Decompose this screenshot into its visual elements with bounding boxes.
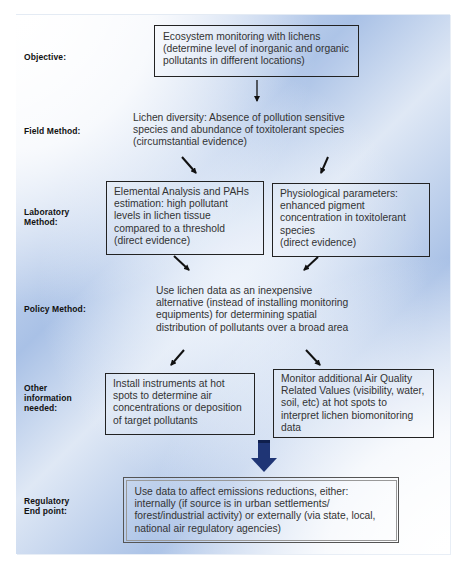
row-label-laboratory-method: Laboratory Method: [24,207,69,227]
row-label-objective: Objective: [24,52,66,62]
row-label-policy-method: Policy Method: [24,304,86,314]
row-label-other-information: Other information needed: [24,383,72,413]
install-instruments-box: Install instruments at hot spots to dete… [105,373,255,435]
diagram-panel [16,14,450,554]
lab-elemental-analysis-box: Elemental Analysis and PAHs estimation: … [106,181,264,255]
monitor-aqrv-box: Monitor additional Air Quality Related V… [273,369,434,438]
regulatory-end-point-text: Use data to affect emissions reductions,… [126,480,397,541]
objective-box: Ecosystem monitoring with lichens (deter… [154,25,359,77]
lab-physiological-box: Physiological parameters: enhanced pigme… [272,183,430,257]
field-method-text: Lichen diversity: Absence of pollution s… [133,112,363,149]
policy-method-text: Use lichen data as an inexpensive altern… [156,285,386,334]
row-label-field-method: Field Method: [24,126,81,136]
row-label-regulatory-end-point: Regulatory End point: [24,496,69,516]
regulatory-end-point-box: Use data to affect emissions reductions,… [123,477,399,543]
